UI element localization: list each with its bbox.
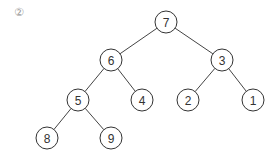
- tree-node-3: 3: [211, 49, 233, 71]
- tree-node-9: 9: [100, 127, 122, 149]
- node-value: 4: [139, 94, 146, 108]
- node-value: 2: [185, 94, 192, 108]
- node-value: 5: [75, 94, 82, 108]
- tree-edge: [120, 28, 157, 53]
- tree-node-1: 1: [242, 89, 264, 111]
- tree-node-6: 6: [100, 49, 122, 71]
- tree-edge: [54, 109, 71, 130]
- tree-node-4: 4: [131, 89, 153, 111]
- tree-edge: [85, 108, 104, 129]
- tree-node-2: 2: [177, 89, 199, 111]
- tree-edge: [118, 69, 136, 92]
- node-value: 9: [108, 132, 115, 146]
- tree-edge: [229, 69, 247, 92]
- tree-edge: [85, 68, 104, 91]
- tree-node-7: 7: [155, 11, 177, 33]
- binary-tree-diagram: 763542189: [0, 0, 273, 158]
- node-value: 7: [163, 16, 170, 30]
- tree-nodes: 763542189: [36, 11, 264, 149]
- node-value: 6: [108, 54, 115, 68]
- tree-node-5: 5: [67, 89, 89, 111]
- tree-node-8: 8: [36, 127, 58, 149]
- tree-edge: [175, 28, 213, 54]
- node-value: 8: [44, 132, 51, 146]
- tree-edge: [195, 68, 215, 91]
- tree-edges: [54, 28, 246, 130]
- node-value: 1: [250, 94, 257, 108]
- node-value: 3: [219, 54, 226, 68]
